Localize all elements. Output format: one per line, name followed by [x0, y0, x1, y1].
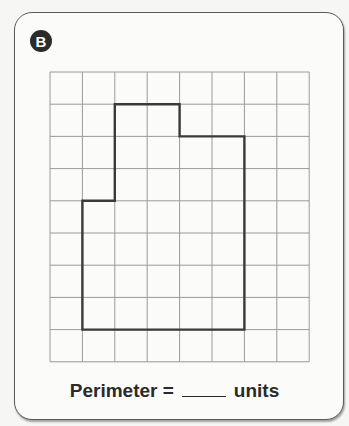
answer-blank[interactable]	[182, 380, 226, 397]
units-label: units	[234, 380, 279, 401]
perimeter-label: Perimeter =	[70, 380, 174, 401]
shape-outline	[82, 104, 244, 329]
grid-with-shape	[0, 0, 349, 426]
perimeter-prompt: Perimeter =units	[0, 380, 349, 402]
